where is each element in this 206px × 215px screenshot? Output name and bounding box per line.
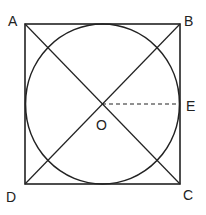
label-a: A (8, 13, 18, 29)
label-c: C (183, 187, 193, 203)
label-d: D (6, 189, 16, 205)
label-e: E (186, 98, 195, 114)
label-o: O (96, 117, 107, 133)
label-b: B (184, 13, 193, 29)
geometry-diagram: A B C D E O (0, 0, 206, 215)
